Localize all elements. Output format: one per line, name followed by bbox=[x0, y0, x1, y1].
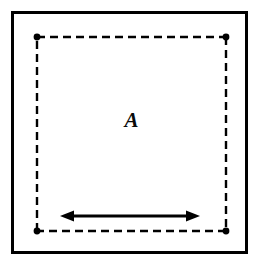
corner-dot-bottom-right bbox=[223, 228, 230, 235]
region-label-text: A bbox=[124, 108, 138, 132]
arrow-head-left-icon bbox=[60, 211, 74, 222]
dashed-boundary-square bbox=[37, 37, 226, 231]
corner-dot-top-left bbox=[34, 34, 41, 41]
corner-dot-top-right bbox=[223, 34, 230, 41]
width-dimension-arrow bbox=[60, 211, 200, 222]
figure-canvas: A bbox=[0, 0, 265, 266]
corner-dot-bottom-left bbox=[34, 228, 41, 235]
arrow-head-right-icon bbox=[186, 211, 200, 222]
region-label: A bbox=[0, 110, 265, 131]
corner-dots bbox=[34, 34, 230, 235]
diagram-svg bbox=[0, 0, 265, 266]
